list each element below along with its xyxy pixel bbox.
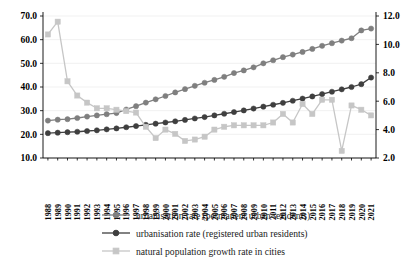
y2-axis-tick-label: 12.0	[383, 11, 400, 21]
data-point	[349, 84, 354, 89]
data-point	[55, 117, 60, 122]
y-axis-tick-label: 60.0	[20, 35, 37, 45]
data-point	[173, 90, 178, 95]
data-point	[114, 126, 119, 131]
data-point	[359, 28, 364, 33]
data-point	[300, 96, 305, 101]
x-axis-tick-label: 2021	[367, 204, 376, 220]
data-point	[104, 112, 109, 117]
data-point	[280, 55, 285, 60]
data-point	[94, 106, 99, 111]
legend-item-3[interactable]: natural population growth rate in cities	[102, 246, 285, 257]
data-point	[359, 107, 364, 112]
data-point	[84, 128, 89, 133]
data-point	[320, 43, 325, 48]
data-point	[192, 116, 197, 121]
data-point	[271, 120, 276, 125]
y-axis-tick-label: 20.0	[20, 130, 37, 140]
data-point	[310, 46, 315, 51]
data-point	[261, 123, 266, 128]
data-point	[339, 148, 344, 153]
data-point	[55, 19, 60, 24]
data-point	[202, 80, 207, 85]
data-point	[143, 100, 148, 105]
data-point	[75, 115, 80, 120]
data-point	[153, 97, 158, 102]
x-axis-tick-label: 1993	[93, 204, 102, 220]
x-axis-tick-label: 1996	[122, 204, 131, 220]
data-point	[202, 134, 207, 139]
data-point	[163, 93, 168, 98]
data-point	[241, 123, 246, 128]
data-point	[300, 101, 305, 106]
data-point	[65, 79, 70, 84]
data-point	[75, 93, 80, 98]
series-line	[48, 78, 371, 134]
legend-marker	[113, 230, 119, 236]
data-point	[212, 77, 217, 82]
data-point	[143, 124, 148, 129]
data-point	[182, 87, 187, 92]
data-point	[241, 108, 246, 113]
data-point	[163, 127, 168, 132]
y2-axis-tick-label: 6.0	[383, 97, 395, 107]
data-point	[104, 127, 109, 132]
legend-marker	[113, 248, 119, 254]
data-point	[192, 83, 197, 88]
data-point	[251, 65, 256, 70]
data-point	[280, 100, 285, 105]
data-point	[94, 128, 99, 133]
data-point	[320, 97, 325, 102]
data-point	[153, 136, 158, 141]
data-point	[153, 121, 158, 126]
data-point	[212, 113, 217, 118]
legend-label: natural population growth rate in cities	[136, 246, 285, 257]
data-point	[45, 32, 50, 37]
data-point	[261, 61, 266, 66]
data-point	[271, 102, 276, 107]
data-point	[310, 111, 315, 116]
y-axis-tick-label: 50.0	[20, 59, 37, 69]
data-point	[133, 110, 138, 115]
data-point	[231, 123, 236, 128]
data-point	[222, 74, 227, 79]
data-point	[261, 104, 266, 109]
legend-item-2[interactable]: urbanisation rate (registered urban resi…	[102, 228, 308, 240]
x-axis-tick-label: 1990	[64, 204, 73, 220]
data-point	[182, 117, 187, 122]
data-point	[124, 109, 129, 114]
data-point	[133, 123, 138, 128]
data-point	[369, 75, 374, 80]
data-point	[320, 92, 325, 97]
data-point	[75, 129, 80, 134]
data-point	[222, 111, 227, 116]
data-point	[84, 100, 89, 105]
data-point	[329, 97, 334, 102]
data-point	[251, 123, 256, 128]
data-point	[124, 125, 129, 130]
data-point	[349, 103, 354, 108]
data-point	[290, 98, 295, 103]
series-3	[45, 19, 373, 153]
data-point	[55, 130, 60, 135]
data-point	[104, 106, 109, 111]
data-point	[202, 114, 207, 119]
data-point	[173, 119, 178, 124]
data-point	[65, 130, 70, 135]
y2-axis-tick-label: 2.0	[383, 153, 395, 163]
data-point	[65, 117, 70, 122]
data-point	[241, 68, 246, 73]
x-axis-tick-label: 1991	[73, 204, 82, 220]
data-point	[290, 52, 295, 57]
data-point	[163, 120, 168, 125]
data-point	[369, 113, 374, 118]
data-point	[359, 82, 364, 87]
x-axis-tick-label: 1989	[54, 204, 63, 220]
data-point	[84, 114, 89, 119]
data-point	[231, 70, 236, 75]
y-axis-tick-label: 30.0	[20, 106, 37, 116]
data-point	[329, 41, 334, 46]
data-point	[114, 107, 119, 112]
legend-label: urbanisation rate (permanent urban resid…	[136, 210, 310, 222]
y-axis-tick-label: 40.0	[20, 82, 37, 92]
